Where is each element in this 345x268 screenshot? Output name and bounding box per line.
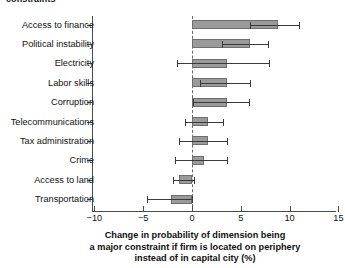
error-bar-line [193,102,249,103]
error-bar-cap-low [200,80,201,87]
x-axis-caption-line-1: Change in probability of dimension being [50,230,340,242]
category-label: Transportation [35,194,94,204]
category-label: Corruption [51,97,94,107]
category-label: Access to finance [22,20,94,30]
category-label: Electricity [55,58,94,68]
error-bar-line [200,83,250,84]
error-bar-cap-high [268,41,269,48]
error-bar-cap-high [250,80,251,87]
error-bar-cap-low [250,22,251,29]
error-bar-line [173,180,193,181]
x-axis-tick [192,206,193,212]
x-axis-tick [143,206,144,212]
error-bar-cap-low [177,60,178,67]
x-axis-tick-label: 15 [318,213,345,223]
error-bar-cap-low [193,99,194,106]
category-label: Labor skills [48,78,94,88]
error-bar-cap-high [227,138,228,145]
x-axis-tick-label: −10 [74,213,114,223]
x-axis-tick-label: 0 [172,213,212,223]
error-bar-line [177,63,269,64]
error-bar-cap-low [222,41,223,48]
error-bar-cap-low [185,119,186,126]
x-axis-caption-line-3: instead of in capital city (%) [50,253,340,265]
x-axis-spine [92,211,336,212]
error-bar-line [185,122,223,123]
error-bar-cap-high [192,196,193,203]
error-bar-cap-high [223,119,224,126]
plot-area: Access to financePolitical instabilityEl… [0,0,345,268]
x-axis-tick [241,206,242,212]
error-bar-line [250,25,300,26]
error-bar-cap-high [299,22,300,29]
error-bar-cap-high [194,177,195,184]
error-bar-line [147,199,192,200]
error-bar-cap-high [269,60,270,67]
category-label: Telecommunications [11,117,94,127]
error-bar-cap-low [175,157,176,164]
error-bar-line [179,141,227,142]
category-label: Political instability [22,39,94,49]
category-label: Tax administration [20,136,94,146]
chart-container: constraints Access to financePolitical i… [0,0,345,268]
error-bar-cap-high [249,99,250,106]
error-bar-cap-low [147,196,148,203]
x-axis-tick [338,206,339,212]
x-axis-tick-label: 10 [270,213,310,223]
x-axis-tick [94,206,95,212]
x-axis-caption: Change in probability of dimension being… [50,230,340,265]
error-bar-cap-high [227,157,228,164]
x-axis-tick-label: −5 [123,213,163,223]
error-bar-cap-low [173,177,174,184]
category-label: Access to land [34,175,94,185]
category-label: Crime [70,155,95,165]
x-axis-tick-label: 5 [221,213,261,223]
error-bar-line [222,44,268,45]
error-bar-line [175,160,227,161]
x-axis-tick [290,206,291,212]
error-bar-cap-low [179,138,180,145]
x-axis-caption-line-2: a major constraint if firm is located on… [50,242,340,254]
